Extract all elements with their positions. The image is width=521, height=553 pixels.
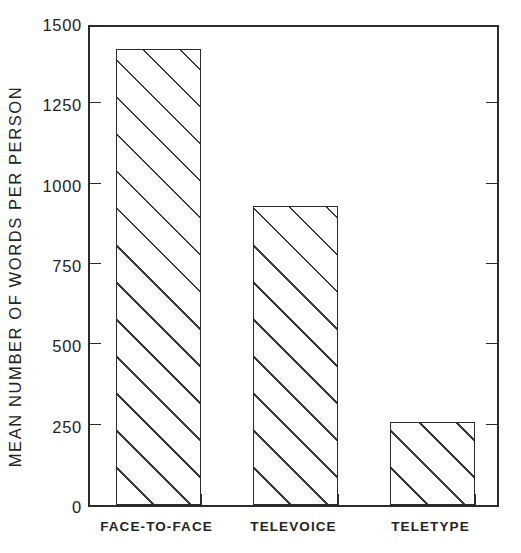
y-axis-tick-mark-right <box>486 263 497 264</box>
x-axis-tick-label: TELEVOICE <box>250 519 336 534</box>
y-axis-tick-label: 1000 <box>26 176 82 195</box>
bar <box>116 49 201 505</box>
y-axis-tick-labels: 0250500750100012501500 <box>26 0 82 553</box>
y-axis-tick-label: 500 <box>26 337 82 356</box>
x-axis-tick-label: FACE-TO-FACE <box>100 519 213 534</box>
plot-area <box>88 25 499 507</box>
x-axis-tick-mark <box>390 494 391 505</box>
y-axis-tick-label: 0 <box>26 498 82 517</box>
x-axis-tick-mark <box>338 494 339 505</box>
y-axis-tick-label: 750 <box>26 257 82 276</box>
bar-chart-figure: MEAN NUMBER OF WORDS PER PERSON 02505007… <box>0 0 521 553</box>
bar <box>390 422 475 505</box>
x-axis-tick-mark <box>116 494 117 505</box>
y-axis-tick-mark <box>90 183 101 184</box>
bar <box>253 206 338 505</box>
x-axis-tick-label: TELETYPE <box>391 519 470 534</box>
y-axis-tick-label: 1500 <box>26 16 82 35</box>
x-axis-tick-mark <box>201 494 202 505</box>
y-axis-tick-mark <box>90 263 101 264</box>
y-axis-tick-label: 1250 <box>26 96 82 115</box>
y-axis-tick-mark-right <box>486 424 497 425</box>
y-axis-tick-mark-right <box>486 183 497 184</box>
y-axis-tick-label: 250 <box>26 417 82 436</box>
y-axis-tick-mark-right <box>486 102 497 103</box>
y-axis-tick-mark-right <box>486 343 497 344</box>
x-axis-tick-mark <box>253 494 254 505</box>
y-axis-tick-mark <box>90 102 101 103</box>
y-axis-tick-mark <box>90 343 101 344</box>
y-axis-tick-mark <box>90 424 101 425</box>
x-axis-tick-mark <box>475 494 476 505</box>
